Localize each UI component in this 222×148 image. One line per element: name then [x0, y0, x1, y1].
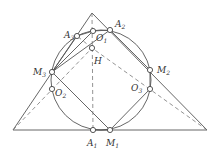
- point-o3: [147, 86, 152, 91]
- segment-m3-a3: [52, 36, 77, 72]
- label-o3: O3: [131, 83, 142, 94]
- point-a1: [90, 127, 95, 132]
- point-h: [89, 45, 94, 50]
- segment-m3-m1: [52, 72, 110, 130]
- label-o2: O2: [55, 88, 66, 99]
- nine-point-circle-diagram: A3O1A2HM3O2M2O3A1M1: [0, 0, 222, 148]
- labels: A3O1A2HM3O2M2O3A1M1: [32, 19, 170, 148]
- label-m2: M2: [156, 65, 170, 76]
- point-a3: [74, 33, 79, 38]
- label-m3: M3: [32, 67, 46, 78]
- segment-m1-o3: [110, 89, 150, 130]
- label-a2: A2: [114, 19, 126, 30]
- label-o1: O1: [96, 33, 107, 44]
- label-a1: A1: [86, 138, 97, 148]
- label-m1: M1: [105, 138, 119, 148]
- point-a2: [107, 27, 112, 32]
- point-m2: [147, 67, 152, 72]
- nine-point-circle: [51, 30, 151, 130]
- label-h: H: [93, 56, 102, 66]
- point-m3: [49, 69, 54, 74]
- segment-a2-m2: [110, 30, 150, 70]
- label-a3: A3: [63, 30, 75, 41]
- point-o1: [90, 28, 95, 33]
- point-m1: [107, 127, 112, 132]
- point-o2: [49, 86, 54, 91]
